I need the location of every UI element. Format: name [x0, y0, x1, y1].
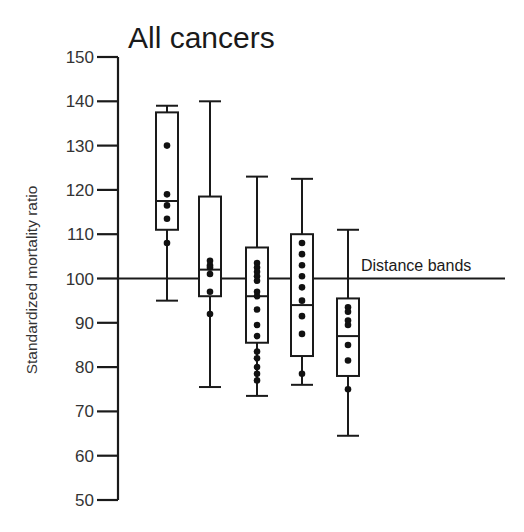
data-point: [254, 306, 261, 313]
data-point: [164, 191, 171, 198]
data-point: [299, 313, 306, 320]
data-point: [254, 370, 261, 377]
data-point: [345, 308, 352, 315]
box-4: [291, 179, 313, 385]
data-point: [164, 202, 171, 209]
data-point: [254, 364, 261, 371]
y-axis: 5060708090100110120130140150: [66, 48, 118, 510]
data-point: [299, 251, 306, 258]
data-point: [254, 277, 261, 284]
data-point: [164, 240, 171, 247]
data-point: [345, 386, 352, 393]
y-tick-label: 70: [75, 402, 94, 421]
data-point: [345, 357, 352, 364]
data-point: [254, 348, 261, 355]
data-point: [299, 240, 306, 247]
y-tick-label: 100: [66, 270, 94, 289]
data-point: [164, 215, 171, 222]
data-point: [254, 355, 261, 362]
data-point: [254, 333, 261, 340]
y-tick-label: 150: [66, 48, 94, 67]
data-point: [299, 273, 306, 280]
data-point: [164, 142, 171, 149]
data-point: [254, 322, 261, 329]
data-point: [299, 284, 306, 291]
y-tick-label: 110: [67, 225, 94, 244]
y-tick-label: 80: [75, 358, 94, 377]
box-1: [156, 106, 178, 301]
box-plot-chart: All cancers 5060708090100110120130140150…: [0, 0, 524, 532]
box-series: [156, 101, 359, 435]
box-5: [337, 230, 359, 436]
box-2: [199, 101, 221, 387]
data-point: [299, 262, 306, 269]
y-axis-label: Standardized mortality ratio: [23, 186, 40, 375]
data-point: [254, 293, 261, 300]
data-point: [299, 370, 306, 377]
data-point: [207, 271, 214, 278]
y-tick-label: 120: [66, 181, 94, 200]
y-tick-label: 130: [66, 137, 94, 156]
data-point: [345, 342, 352, 349]
y-tick-label: 140: [66, 92, 94, 111]
iqr-box: [156, 112, 178, 229]
data-point: [299, 331, 306, 338]
y-tick-label: 50: [75, 491, 94, 510]
data-point: [207, 288, 214, 295]
y-tick-label: 90: [75, 314, 94, 333]
data-point: [207, 311, 214, 318]
box-3: [246, 177, 268, 396]
y-tick-label: 60: [75, 447, 94, 466]
iqr-box: [199, 197, 221, 297]
data-point: [254, 377, 261, 384]
chart-title: All cancers: [128, 21, 275, 54]
reference-line-label: Distance bands: [361, 257, 471, 274]
data-point: [299, 297, 306, 304]
data-point: [345, 322, 352, 329]
data-point: [207, 264, 214, 271]
